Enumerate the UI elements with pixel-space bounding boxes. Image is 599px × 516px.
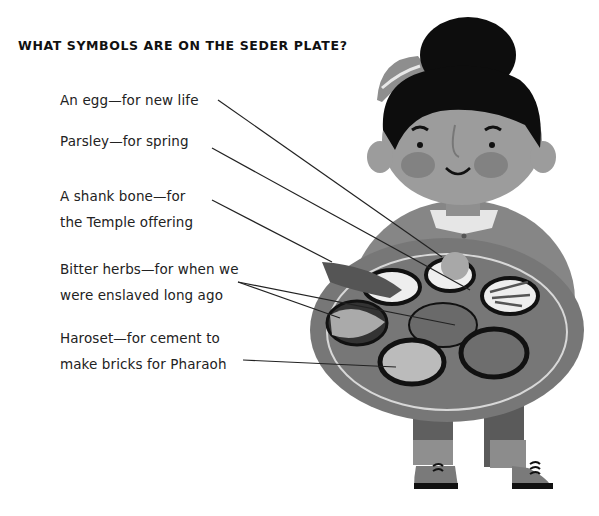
shoes-icon	[414, 462, 553, 489]
haroset-icon	[380, 340, 444, 384]
seder-plate	[310, 238, 584, 422]
leader-shank-bone	[212, 200, 332, 262]
seder-illustration	[0, 0, 599, 516]
